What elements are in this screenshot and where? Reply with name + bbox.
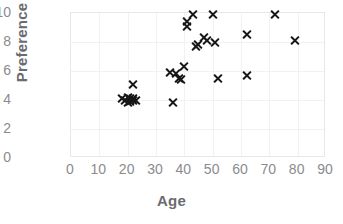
y-tick-label: 10: [0, 5, 11, 19]
scatter-chart: 0246810 0102030405060708090 Age Preferen…: [0, 0, 343, 224]
gridline-vertical: [298, 13, 299, 156]
data-point: [125, 96, 136, 107]
x-axis-title: Age: [0, 192, 343, 209]
gridline-vertical: [99, 13, 100, 156]
data-point: [241, 29, 252, 40]
gridline-vertical: [269, 13, 270, 156]
y-tick-label: 6: [0, 63, 11, 77]
data-point: [289, 35, 300, 46]
y-tick-label: 4: [0, 92, 11, 106]
data-point: [128, 93, 139, 104]
y-tick-label: 0: [0, 150, 11, 164]
data-point: [173, 73, 184, 84]
data-point: [128, 79, 139, 90]
gridline-vertical: [213, 13, 214, 156]
gridline-vertical: [156, 13, 157, 156]
plot-area: [70, 12, 325, 157]
data-point: [182, 16, 193, 27]
gridline-horizontal: [71, 100, 324, 101]
data-point: [117, 93, 128, 104]
data-point: [202, 35, 213, 46]
data-point: [125, 93, 136, 104]
data-point: [165, 67, 176, 78]
gridline-vertical: [184, 13, 185, 156]
y-axis-title: Preference: [13, 0, 30, 108]
data-point: [213, 73, 224, 84]
data-point: [176, 74, 187, 85]
data-point: [182, 21, 193, 32]
gridline-horizontal: [71, 42, 324, 43]
y-tick-label: 2: [0, 121, 11, 135]
y-tick-label: 8: [0, 34, 11, 48]
gridline-horizontal: [71, 129, 324, 130]
gridline-vertical: [128, 13, 129, 156]
gridline-horizontal: [71, 71, 324, 72]
x-tick-label: 90: [308, 162, 342, 176]
gridline-vertical: [241, 13, 242, 156]
data-point: [187, 9, 198, 20]
data-point: [270, 9, 281, 20]
